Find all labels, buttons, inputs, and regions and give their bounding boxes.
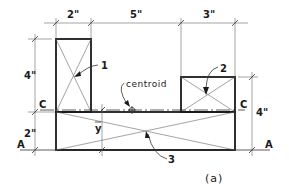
axis-label-a-right: A <box>265 139 273 150</box>
rectangle-part-2 <box>181 77 235 112</box>
axis-label-c-right: C <box>240 99 247 110</box>
dim-label-5in: 5" <box>130 9 142 20</box>
composite-section-diagram: 2" 5" 3" 4" 2" 4" A A C C <box>0 0 289 196</box>
arrowhead-part-2 <box>203 87 209 95</box>
dim-label-3in: 3" <box>203 9 215 20</box>
callout-label-3: 3 <box>168 154 175 165</box>
ybar-label: y <box>95 123 102 134</box>
dim-label-2in: 2" <box>67 9 79 20</box>
top-dimension-line <box>44 18 248 77</box>
axis-label-c-left: C <box>39 99 46 110</box>
callout-label-2: 2 <box>220 63 227 74</box>
dim-label-left-2in: 2" <box>24 128 36 139</box>
dim-label-right-4in: 4" <box>256 107 268 118</box>
callout-label-1: 1 <box>101 60 108 71</box>
dim-label-left-4in: 4" <box>24 70 36 81</box>
centroid-label: centroid <box>126 79 167 89</box>
rectangle-part-3 <box>56 112 235 150</box>
axis-label-a-left: A <box>17 139 25 150</box>
figure-caption: (a) <box>205 172 223 185</box>
leader-part-3 <box>148 134 167 159</box>
rectangle-part-1 <box>56 39 91 112</box>
right-dimension-line <box>238 72 258 156</box>
leader-part-1 <box>78 65 98 75</box>
